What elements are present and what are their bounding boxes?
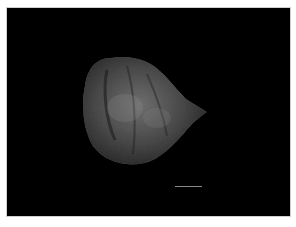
scale-bar <box>175 186 202 187</box>
specimen-body <box>83 57 207 164</box>
specimen-image <box>7 8 291 217</box>
micrograph-frame <box>6 7 291 217</box>
